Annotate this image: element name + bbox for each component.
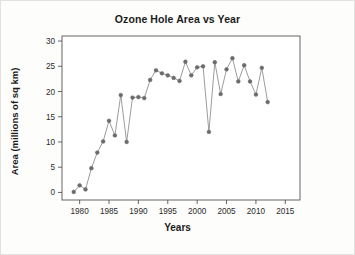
data-point (154, 68, 158, 72)
data-point (254, 93, 258, 97)
plot-area: 051015202530 198019851990199520002005201… (0, 0, 355, 255)
y-tick-label: 30 (46, 37, 56, 46)
data-point (125, 140, 129, 144)
data-point (166, 73, 170, 77)
y-tick-group: 051015202530 (46, 37, 62, 197)
x-tick-group: 19801985199019952000200520102015 (71, 200, 295, 216)
x-tick-label: 1995 (159, 207, 178, 216)
y-tick-label: 20 (46, 88, 56, 97)
data-point (172, 76, 176, 80)
data-point (236, 80, 240, 84)
data-point (201, 64, 205, 68)
data-point (266, 100, 270, 104)
data-point (142, 96, 146, 100)
x-tick-label: 1990 (129, 207, 148, 216)
data-point (95, 151, 99, 155)
plot-frame (62, 36, 300, 200)
data-point (160, 71, 164, 75)
data-point (89, 166, 93, 170)
data-point (131, 96, 135, 100)
chart-figure: Ozone Hole Area vs Year Area (millions o… (0, 0, 355, 255)
data-point (137, 95, 141, 99)
data-point (72, 190, 76, 194)
data-point (107, 119, 111, 123)
data-point (207, 130, 211, 134)
y-tick-label: 10 (46, 138, 56, 147)
data-point (260, 66, 264, 70)
data-point (78, 183, 82, 187)
data-point (219, 92, 223, 96)
data-point (231, 56, 235, 60)
plot-background (62, 36, 300, 200)
y-tick-label: 5 (50, 163, 55, 172)
x-tick-label: 2015 (276, 207, 295, 216)
data-point (242, 63, 246, 67)
data-point (248, 80, 252, 84)
data-point (148, 78, 152, 82)
y-tick-label: 25 (46, 62, 56, 71)
x-tick-label: 2010 (247, 207, 266, 216)
x-tick-label: 1980 (71, 207, 90, 216)
data-point (225, 67, 229, 71)
data-point (189, 73, 193, 77)
data-point (178, 79, 182, 83)
x-tick-label: 2005 (217, 207, 236, 216)
y-tick-label: 15 (46, 113, 56, 122)
y-tick-label: 0 (50, 188, 55, 197)
data-point (184, 60, 188, 64)
x-tick-label: 2000 (188, 207, 207, 216)
data-point (213, 60, 217, 64)
data-point (113, 134, 117, 138)
data-point (84, 188, 88, 192)
data-point (101, 140, 105, 144)
x-tick-label: 1985 (100, 207, 119, 216)
data-point (119, 93, 123, 97)
data-point (195, 65, 199, 69)
